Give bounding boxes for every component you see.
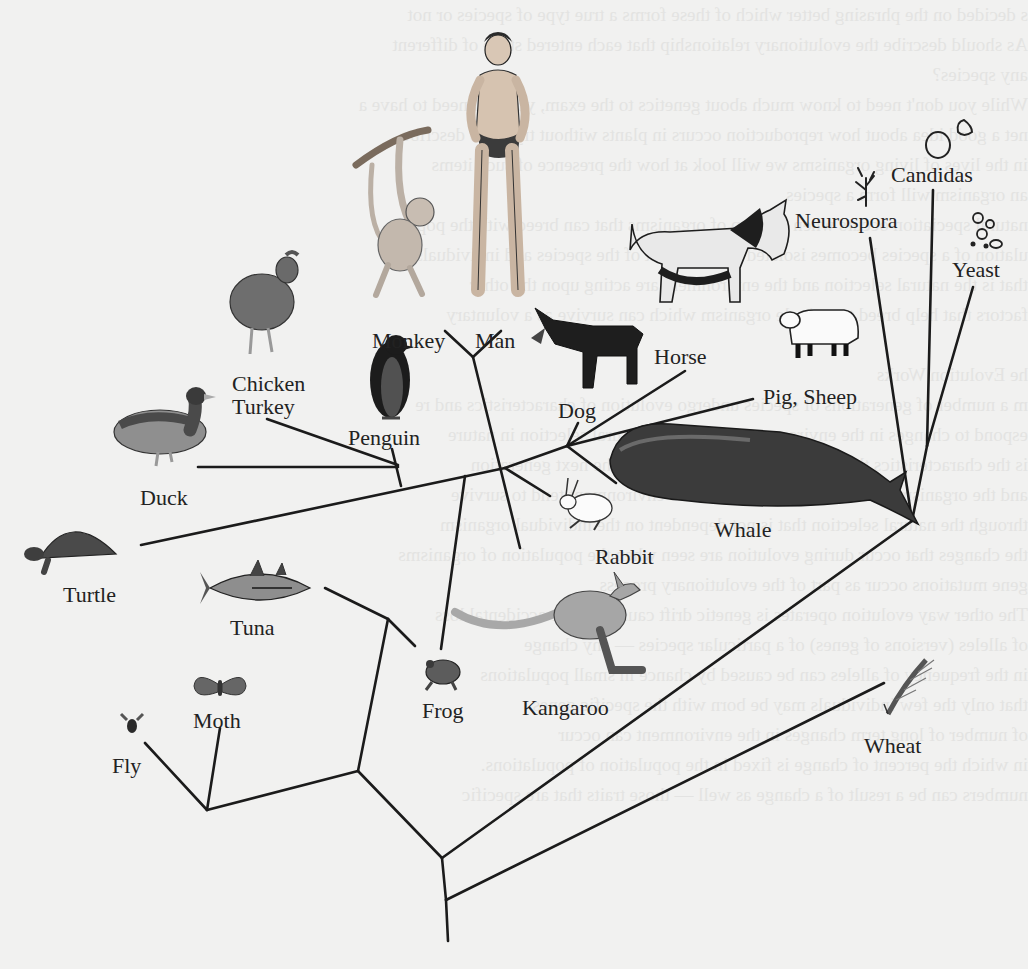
label-penguin: Penguin [348, 427, 420, 449]
label-man: Man [475, 330, 515, 352]
dog-icon [531, 308, 643, 388]
turtle-icon [24, 532, 116, 572]
sheep-icon [780, 310, 858, 358]
label-duck: Duck [140, 487, 188, 509]
label-candidas: Candidas [891, 164, 973, 186]
duck-icon [114, 387, 216, 466]
tree-branch [358, 619, 388, 771]
label-turtle: Turtle [63, 584, 116, 606]
moth-icon [194, 677, 246, 696]
tree-branch [445, 331, 473, 357]
textbook-page: s decided on the phrasing better which o… [0, 0, 1028, 969]
tree-branch [207, 771, 358, 810]
chicken-icon [230, 252, 298, 354]
rabbit-icon [560, 478, 612, 530]
tree-branch [446, 683, 884, 900]
tree-branch [442, 521, 912, 858]
label-kangaroo: Kangaroo [522, 697, 609, 719]
tree-branch [141, 468, 505, 545]
label-whale: Whale [714, 519, 771, 541]
label-fly: Fly [112, 755, 141, 777]
label-moth: Moth [193, 710, 241, 732]
tree-branch [567, 446, 616, 483]
tree-branch [927, 287, 973, 446]
neurospora-icon [856, 168, 874, 206]
tree-branch [441, 476, 465, 649]
label-pig-sheep: Pig, Sheep [763, 386, 857, 408]
label-dog: Dog [558, 400, 596, 422]
wheat-icon [884, 660, 934, 714]
label-turkey: Turkey [232, 396, 295, 418]
label-chicken: Chicken [232, 373, 305, 395]
tree-branch [442, 858, 446, 900]
tree-branch [505, 446, 567, 468]
label-rabbit: Rabbit [595, 546, 654, 568]
label-horse: Horse [654, 346, 707, 368]
kangaroo-icon [455, 572, 642, 670]
fly-icon [121, 714, 143, 733]
tree-branch [927, 190, 933, 446]
tree-branch [325, 588, 388, 619]
tree-branch [358, 771, 442, 858]
label-tuna: Tuna [230, 617, 274, 639]
candidas-icon [926, 120, 972, 158]
man-icon [471, 32, 525, 290]
horse-icon [630, 200, 789, 302]
yeast-icon [971, 213, 1003, 249]
tuna-icon [200, 560, 310, 604]
label-frog: Frog [422, 700, 464, 722]
label-yeast: Yeast [952, 259, 1000, 281]
whale-icon [610, 424, 918, 524]
tree-branch [473, 357, 520, 548]
tree-branch [505, 468, 550, 496]
label-wheat: Wheat [864, 735, 921, 757]
frog-icon [426, 660, 460, 690]
tree-branch [912, 446, 927, 521]
tree-branch [446, 900, 448, 941]
label-monkey: Monkey [372, 330, 445, 352]
label-neurospora: Neurospora [795, 210, 898, 232]
tree-branch [207, 728, 220, 810]
tree-branch [145, 743, 207, 810]
monkey-icon [356, 130, 434, 295]
tree-branch [388, 619, 415, 646]
